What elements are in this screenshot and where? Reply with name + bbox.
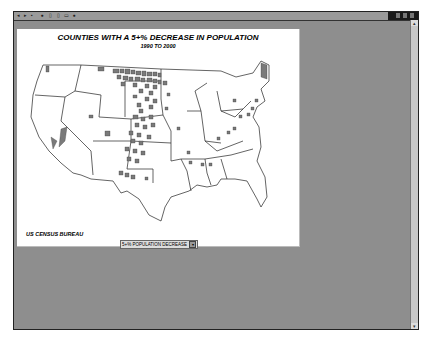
dropdown-arrow-icon[interactable]: ▾ [189, 241, 196, 248]
vertical-scrollbar[interactable]: ▴ ▾ [410, 20, 418, 329]
back-icon[interactable]: ◂ [15, 13, 21, 18]
map-subtitle: 1990 TO 2000 [17, 43, 299, 49]
map-title: COUNTIES WITH A 5+% DECREASE IN POPULATI… [17, 33, 299, 42]
forward-icon[interactable]: ▸ [22, 13, 28, 18]
minimize-icon[interactable] [396, 13, 400, 18]
info-icon[interactable]: ● [71, 13, 77, 18]
maximize-icon[interactable] [403, 13, 407, 18]
home-icon[interactable]: ▯ [47, 13, 53, 18]
window-controls [388, 12, 418, 20]
page-icon[interactable]: ▭ [63, 13, 69, 18]
viewer-window: ◂ ▸ ▪ ● ▯ ▯ ▭ ● ▴ ▾ COUNTIES WITH A 5+% … [13, 11, 419, 330]
map-panel: COUNTIES WITH A 5+% DECREASE IN POPULATI… [17, 29, 300, 247]
scroll-down-icon[interactable]: ▾ [411, 323, 418, 329]
stop-icon[interactable]: ▪ [29, 13, 35, 18]
legend-dropdown[interactable]: 5+% POPULATION DECREASE ▾ [120, 240, 198, 249]
close-icon[interactable] [410, 13, 414, 18]
scroll-up-icon[interactable]: ▴ [411, 20, 418, 26]
source-label: US CENSUS BUREAU [26, 231, 83, 237]
print-icon[interactable]: ▯ [55, 13, 61, 18]
us-county-map [21, 51, 296, 229]
refresh-icon[interactable]: ● [39, 13, 45, 18]
toolbar: ◂ ▸ ▪ ● ▯ ▯ ▭ ● [14, 12, 418, 21]
legend-selected-value: 5+% POPULATION DECREASE [122, 242, 187, 247]
